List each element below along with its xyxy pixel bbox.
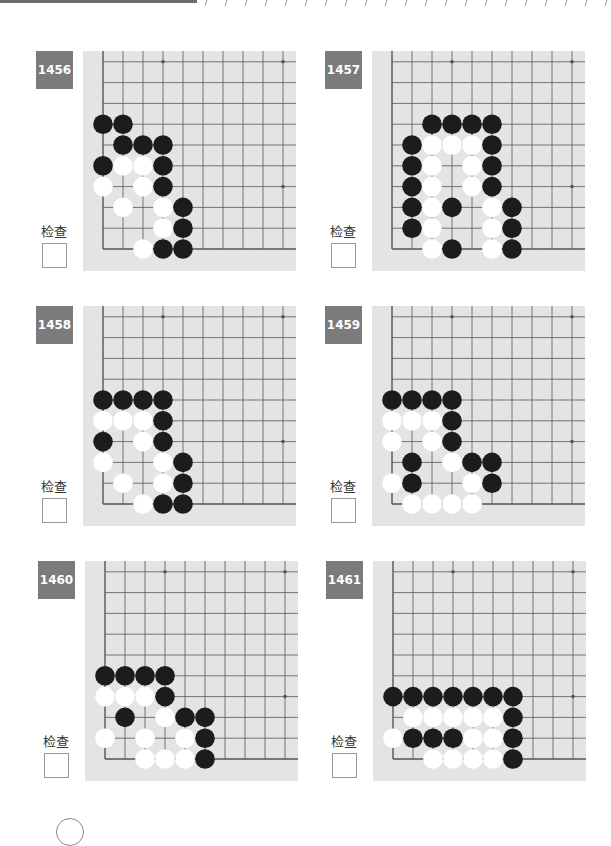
go-board[interactable] bbox=[372, 51, 585, 271]
white-stone bbox=[113, 198, 133, 218]
black-stone bbox=[442, 114, 462, 134]
white-stone bbox=[423, 749, 443, 769]
go-board[interactable] bbox=[83, 306, 296, 526]
white-stone bbox=[482, 239, 502, 259]
black-stone bbox=[482, 473, 502, 493]
black-stone bbox=[195, 728, 215, 748]
black-stone bbox=[442, 411, 462, 431]
white-stone bbox=[133, 177, 153, 197]
white-stone bbox=[423, 708, 443, 728]
check-checkbox[interactable] bbox=[331, 498, 356, 523]
black-stone bbox=[402, 156, 422, 176]
white-stone bbox=[175, 749, 195, 769]
black-stone bbox=[195, 708, 215, 728]
black-stone bbox=[503, 708, 523, 728]
problem-number-badge: 1456 bbox=[36, 51, 73, 89]
problem-1461: 1461 检查 bbox=[326, 561, 606, 791]
black-stone bbox=[502, 198, 522, 218]
white-stone bbox=[483, 749, 503, 769]
black-stone bbox=[173, 239, 193, 259]
white-stone bbox=[155, 749, 175, 769]
white-stone bbox=[95, 728, 115, 748]
black-stone bbox=[153, 494, 173, 514]
white-stone bbox=[462, 177, 482, 197]
white-stone bbox=[463, 708, 483, 728]
black-stone bbox=[153, 156, 173, 176]
white-stone bbox=[93, 411, 113, 431]
white-stone bbox=[153, 198, 173, 218]
black-stone bbox=[153, 177, 173, 197]
go-board[interactable] bbox=[83, 51, 296, 271]
problem-1460: 1460 检查 bbox=[38, 561, 318, 791]
white-stone bbox=[422, 156, 442, 176]
white-stone bbox=[93, 453, 113, 473]
check-checkbox[interactable] bbox=[44, 753, 69, 778]
white-stone bbox=[462, 156, 482, 176]
black-stone bbox=[195, 749, 215, 769]
check-checkbox[interactable] bbox=[331, 243, 356, 268]
page-number-circle bbox=[56, 818, 84, 846]
white-stone bbox=[422, 494, 442, 514]
black-stone bbox=[382, 390, 402, 410]
black-stone bbox=[442, 432, 462, 452]
white-stone bbox=[422, 218, 442, 238]
white-stone bbox=[133, 239, 153, 259]
check-checkbox[interactable] bbox=[42, 243, 67, 268]
black-stone bbox=[462, 114, 482, 134]
black-stone bbox=[402, 473, 422, 493]
black-stone bbox=[502, 239, 522, 259]
problem-1457: 1457 检查 bbox=[325, 51, 605, 281]
black-stone bbox=[422, 390, 442, 410]
black-stone bbox=[483, 687, 503, 707]
white-stone bbox=[462, 135, 482, 155]
white-stone bbox=[403, 708, 423, 728]
white-stone bbox=[422, 239, 442, 259]
go-board[interactable] bbox=[85, 561, 298, 781]
black-stone bbox=[115, 666, 135, 686]
black-stone bbox=[173, 453, 193, 473]
black-stone bbox=[135, 666, 155, 686]
black-stone bbox=[173, 494, 193, 514]
black-stone bbox=[403, 728, 423, 748]
white-stone bbox=[482, 218, 502, 238]
check-checkbox[interactable] bbox=[332, 753, 357, 778]
white-stone bbox=[382, 411, 402, 431]
white-stone bbox=[462, 473, 482, 493]
black-stone bbox=[482, 114, 502, 134]
white-stone bbox=[153, 473, 173, 493]
black-stone bbox=[482, 453, 502, 473]
black-stone bbox=[422, 114, 442, 134]
black-stone bbox=[502, 218, 522, 238]
white-stone bbox=[153, 453, 173, 473]
black-stone bbox=[482, 177, 502, 197]
black-stone bbox=[133, 390, 153, 410]
problem-1456: 1456 检查 bbox=[36, 51, 316, 281]
black-stone bbox=[462, 453, 482, 473]
white-stone bbox=[422, 135, 442, 155]
check-label: 检查 bbox=[41, 221, 67, 240]
white-stone bbox=[422, 411, 442, 431]
white-stone bbox=[133, 411, 153, 431]
go-board[interactable] bbox=[372, 306, 585, 526]
check-checkbox[interactable] bbox=[42, 498, 67, 523]
white-stone bbox=[443, 708, 463, 728]
white-stone bbox=[422, 432, 442, 452]
black-stone bbox=[113, 135, 133, 155]
black-stone bbox=[402, 135, 422, 155]
black-stone bbox=[402, 198, 422, 218]
black-stone bbox=[482, 135, 502, 155]
white-stone bbox=[442, 135, 462, 155]
black-stone bbox=[503, 749, 523, 769]
black-stone bbox=[403, 687, 423, 707]
white-stone bbox=[133, 494, 153, 514]
white-stone bbox=[463, 728, 483, 748]
white-stone bbox=[113, 411, 133, 431]
white-stone bbox=[442, 494, 462, 514]
black-stone bbox=[443, 687, 463, 707]
black-stone bbox=[482, 156, 502, 176]
white-stone bbox=[483, 708, 503, 728]
header-bar bbox=[0, 0, 197, 3]
black-stone bbox=[402, 177, 422, 197]
white-stone bbox=[443, 749, 463, 769]
go-board[interactable] bbox=[373, 561, 586, 781]
